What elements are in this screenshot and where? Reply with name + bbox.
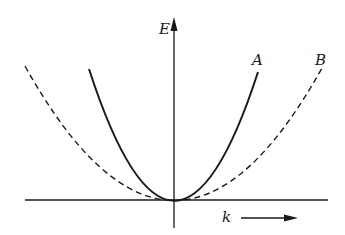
- k-axis-label: k: [222, 210, 231, 225]
- e-axis-label: E: [159, 22, 170, 37]
- k-direction-arrow-icon: [284, 215, 298, 222]
- diagram-canvas: [0, 0, 345, 235]
- curve-b-label: B: [315, 53, 326, 68]
- curve-a-label: A: [252, 53, 263, 68]
- e-axis-arrow-icon: [171, 17, 178, 31]
- dispersion-diagram: E k A B: [0, 0, 345, 235]
